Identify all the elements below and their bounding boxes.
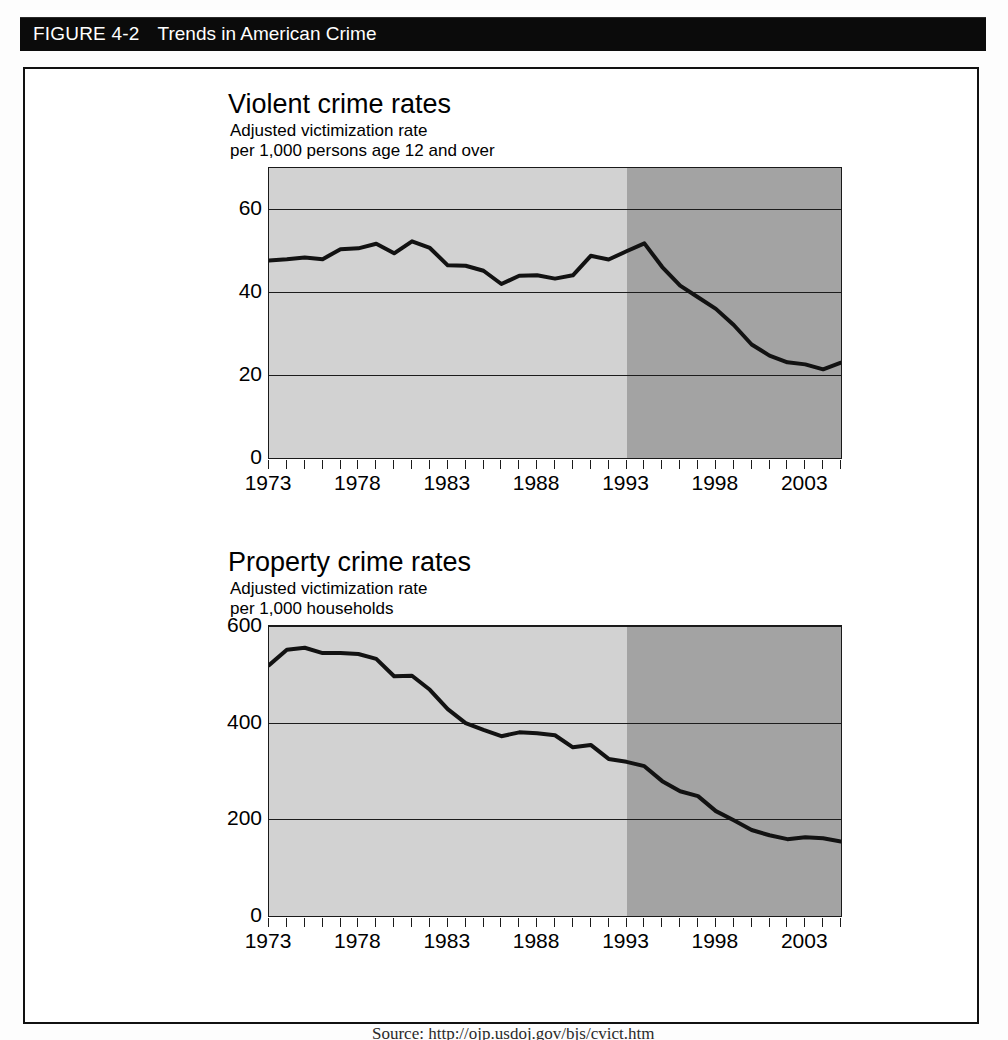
y-tick-label-violent-40: 40 — [239, 279, 262, 303]
x-tick-property-1996 — [679, 918, 680, 927]
x-tick-label-property-1973: 1973 — [245, 929, 292, 953]
x-tick-violent-1997 — [697, 460, 698, 469]
chart-violent-title: Violent crime rates — [228, 89, 960, 119]
x-tick-violent-1988 — [536, 460, 537, 469]
y-tick-label-violent-20: 20 — [239, 362, 262, 386]
x-tick-violent-1981 — [411, 460, 412, 469]
x-tick-label-violent-1988: 1988 — [513, 471, 560, 495]
x-axis-ticks-property — [268, 918, 842, 928]
plot-wrap-violent: 0204060 1973197819831988199319982003 — [200, 167, 960, 497]
x-tick-property-1994 — [643, 918, 644, 927]
plot-wrap-property: 0200400600 1973197819831988199319982003 — [200, 625, 960, 955]
x-tick-label-violent-1983: 1983 — [423, 471, 470, 495]
x-tick-property-1998 — [715, 918, 716, 927]
x-tick-property-1999 — [733, 918, 734, 927]
x-tick-property-1977 — [340, 918, 341, 927]
x-tick-label-property-2003: 2003 — [781, 929, 828, 953]
x-tick-label-property-1998: 1998 — [692, 929, 739, 953]
x-tick-violent-2004 — [822, 460, 823, 469]
x-tick-violent-1983 — [447, 460, 448, 469]
x-tick-violent-1979 — [375, 460, 376, 469]
y-tick-label-property-0: 0 — [250, 903, 262, 927]
x-tick-violent-1990 — [572, 460, 573, 469]
x-tick-violent-2002 — [786, 460, 787, 469]
x-tick-violent-2000 — [751, 460, 752, 469]
x-tick-property-1985 — [483, 918, 484, 927]
figure-page: FIGURE 4-2 Trends in American Crime Viol… — [0, 0, 1008, 1040]
plot-area-property — [268, 625, 842, 917]
x-tick-violent-1996 — [679, 460, 680, 469]
x-tick-property-1980 — [393, 918, 394, 927]
x-tick-label-violent-1978: 1978 — [334, 471, 381, 495]
x-tick-property-1982 — [429, 918, 430, 927]
x-tick-violent-2003 — [804, 460, 805, 469]
x-tick-violent-1994 — [643, 460, 644, 469]
x-tick-property-1983 — [447, 918, 448, 927]
figure-number: FIGURE 4-2 — [33, 23, 140, 45]
x-tick-property-2002 — [786, 918, 787, 927]
x-tick-property-1984 — [465, 918, 466, 927]
x-tick-property-2000 — [751, 918, 752, 927]
x-tick-property-1992 — [608, 918, 609, 927]
x-tick-violent-2001 — [769, 460, 770, 469]
x-axis-labels-property: 1973197819831988199319982003 — [268, 929, 842, 955]
plot-area-violent — [268, 167, 842, 459]
x-axis-ticks-violent — [268, 460, 842, 470]
x-tick-violent-1978 — [357, 460, 358, 469]
x-tick-violent-1998 — [715, 460, 716, 469]
y-tick-label-property-400: 400 — [227, 710, 262, 734]
figure-banner: FIGURE 4-2 Trends in American Crime — [20, 17, 986, 51]
x-tick-label-violent-1998: 1998 — [692, 471, 739, 495]
x-tick-violent-1973 — [268, 460, 269, 469]
x-tick-property-1986 — [500, 918, 501, 927]
series-line-violent — [269, 168, 841, 458]
x-tick-property-1991 — [590, 918, 591, 927]
x-tick-property-1979 — [375, 918, 376, 927]
figure-title: Trends in American Crime — [158, 23, 377, 45]
x-tick-label-violent-1993: 1993 — [602, 471, 649, 495]
source-caption: Source: http://ojp.usdoj.gov/bjs/cvict.h… — [0, 1028, 1008, 1040]
chart-property-subtitle-line1: Adjusted victimization rate — [230, 579, 960, 599]
x-tick-property-2003 — [804, 918, 805, 927]
x-tick-property-1978 — [357, 918, 358, 927]
x-tick-violent-1987 — [518, 460, 519, 469]
x-tick-property-1987 — [518, 918, 519, 927]
x-tick-property-1973 — [268, 918, 269, 927]
chart-property-title: Property crime rates — [228, 547, 960, 577]
x-tick-property-2001 — [769, 918, 770, 927]
x-tick-violent-1989 — [554, 460, 555, 469]
x-tick-property-1988 — [536, 918, 537, 927]
chart-property-subtitle-line2: per 1,000 households — [230, 599, 960, 619]
x-tick-property-1981 — [411, 918, 412, 927]
source-caption-text: Source: http://ojp.usdoj.gov/bjs/cvict.h… — [372, 1028, 1008, 1040]
x-tick-property-1990 — [572, 918, 573, 927]
x-tick-violent-1995 — [661, 460, 662, 469]
x-tick-violent-1980 — [393, 460, 394, 469]
x-tick-violent-1985 — [483, 460, 484, 469]
x-axis-labels-violent: 1973197819831988199319982003 — [268, 471, 842, 497]
y-tick-label-violent-60: 60 — [239, 196, 262, 220]
x-tick-property-1993 — [626, 918, 627, 927]
chart-violent-crime: Violent crime rates Adjusted victimizati… — [200, 89, 960, 497]
y-axis-labels-violent: 0204060 — [200, 167, 268, 497]
x-tick-label-property-1978: 1978 — [334, 929, 381, 953]
chart-violent-subtitle-line2: per 1,000 persons age 12 and over — [230, 141, 960, 161]
x-tick-property-1974 — [286, 918, 287, 927]
x-tick-property-1989 — [554, 918, 555, 927]
x-tick-property-1995 — [661, 918, 662, 927]
x-tick-violent-1992 — [608, 460, 609, 469]
x-tick-violent-1999 — [733, 460, 734, 469]
y-axis-labels-property: 0200400600 — [200, 625, 268, 955]
x-tick-property-2005 — [840, 918, 841, 927]
figure-frame: Violent crime rates Adjusted victimizati… — [23, 67, 979, 1024]
x-tick-violent-1993 — [626, 460, 627, 469]
x-tick-violent-2005 — [840, 460, 841, 469]
x-tick-violent-1984 — [465, 460, 466, 469]
x-tick-property-2004 — [822, 918, 823, 927]
x-tick-violent-1974 — [286, 460, 287, 469]
x-tick-property-1976 — [322, 918, 323, 927]
x-tick-violent-1991 — [590, 460, 591, 469]
series-line-property — [269, 626, 841, 916]
y-tick-label-violent-0: 0 — [250, 445, 262, 469]
x-tick-label-property-1993: 1993 — [602, 929, 649, 953]
